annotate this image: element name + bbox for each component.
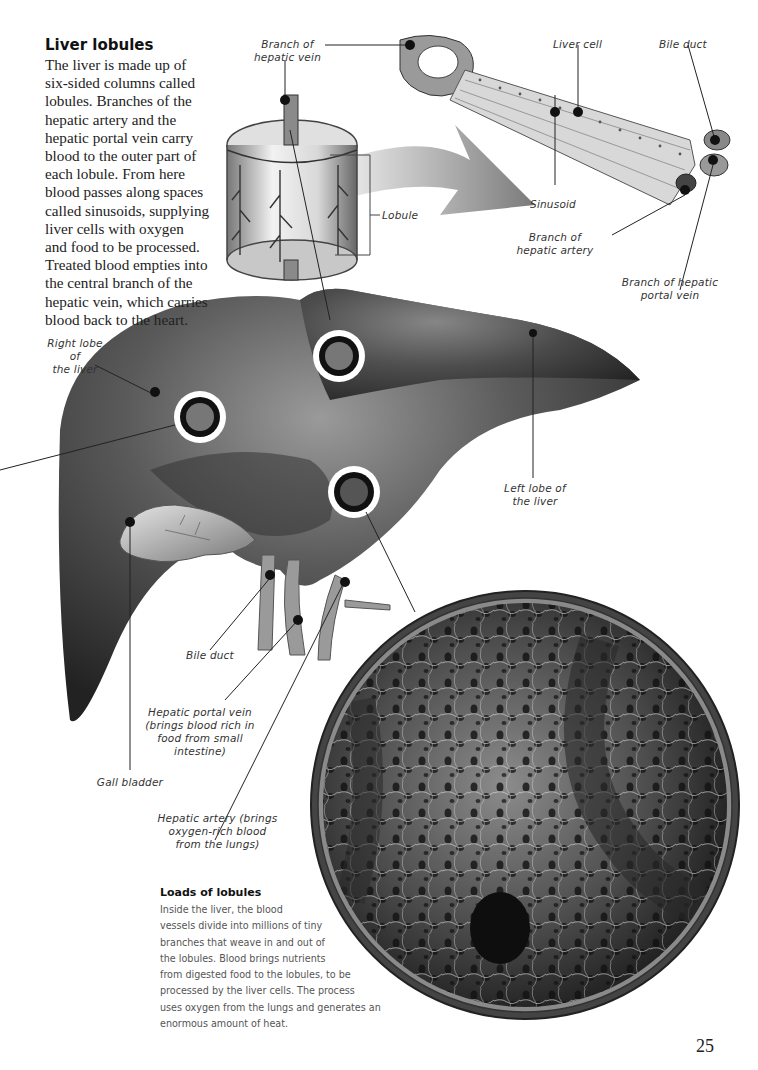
intro-line: the central branch of the xyxy=(45,274,220,292)
section-title-loads-of-lobules: Loads of lobules xyxy=(160,886,261,899)
label-liver-cell: Liver cell xyxy=(540,38,615,51)
loads-line: from digested food to the lobules, to be xyxy=(160,967,420,983)
section-title-liver-lobules: Liver lobules xyxy=(45,36,153,54)
label-bile-duct: Bile duct xyxy=(175,649,245,662)
label-hepatic-portal-vein: Hepatic portal vein (brings blood rich i… xyxy=(140,706,260,758)
intro-paragraph: The liver is made up of six-sided column… xyxy=(45,56,220,329)
intro-line: lobules. Branches of the xyxy=(45,92,220,110)
intro-line: liver cells with oxygen xyxy=(45,220,220,238)
intro-line: called sinusoids, supplying xyxy=(45,202,220,220)
loads-line: the lobules. Blood brings nutrients xyxy=(160,951,420,967)
label-branch-hepatic-artery: Branch of hepatic artery xyxy=(505,231,605,257)
label-lobule: Lobule xyxy=(382,209,432,222)
intro-line: each lobule. From here xyxy=(45,165,220,183)
label-left-lobe: Left lobe of the liver xyxy=(495,482,575,508)
loads-line: vessels divide into millions of tiny xyxy=(160,918,420,934)
intro-line: blood to the outer part of xyxy=(45,147,220,165)
intro-line: The liver is made up of xyxy=(45,56,220,74)
label-branch-hepatic-vein: Branch of hepatic vein xyxy=(245,38,330,64)
page-number: 25 xyxy=(696,1036,714,1057)
intro-line: six-sided columns called xyxy=(45,74,220,92)
intro-line: hepatic vein, which carries xyxy=(45,293,220,311)
label-right-lobe: Right lobe of the liver xyxy=(40,337,110,376)
loads-line: processed by the liver cells. The proces… xyxy=(160,983,420,999)
loads-line: Inside the liver, the blood xyxy=(160,902,420,918)
loads-paragraph: Inside the liver, the blood vessels divi… xyxy=(160,902,420,1032)
intro-line: hepatic portal vein carry xyxy=(45,129,220,147)
loads-line: uses oxygen from the lungs and generates… xyxy=(160,1000,420,1016)
loads-line: enormous amount of heat. xyxy=(160,1016,420,1032)
label-hepatic-artery: Hepatic artery (brings oxygen-rich blood… xyxy=(155,812,280,851)
intro-line: and food to be processed. xyxy=(45,238,220,256)
loads-line: branches that weave in and out of xyxy=(160,935,420,951)
intro-line: blood passes along spaces xyxy=(45,183,220,201)
label-gall-bladder: Gall bladder xyxy=(90,776,170,789)
label-branch-hepatic-portal-vein: Branch of hepatic portal vein xyxy=(605,276,735,302)
intro-line: blood back to the heart. xyxy=(45,311,220,329)
label-sinusoid: Sinusoid xyxy=(523,198,583,211)
intro-line: hepatic artery and the xyxy=(45,111,220,129)
label-bile-duct-top: Bile duct xyxy=(648,38,718,51)
intro-line: Treated blood empties into xyxy=(45,256,220,274)
